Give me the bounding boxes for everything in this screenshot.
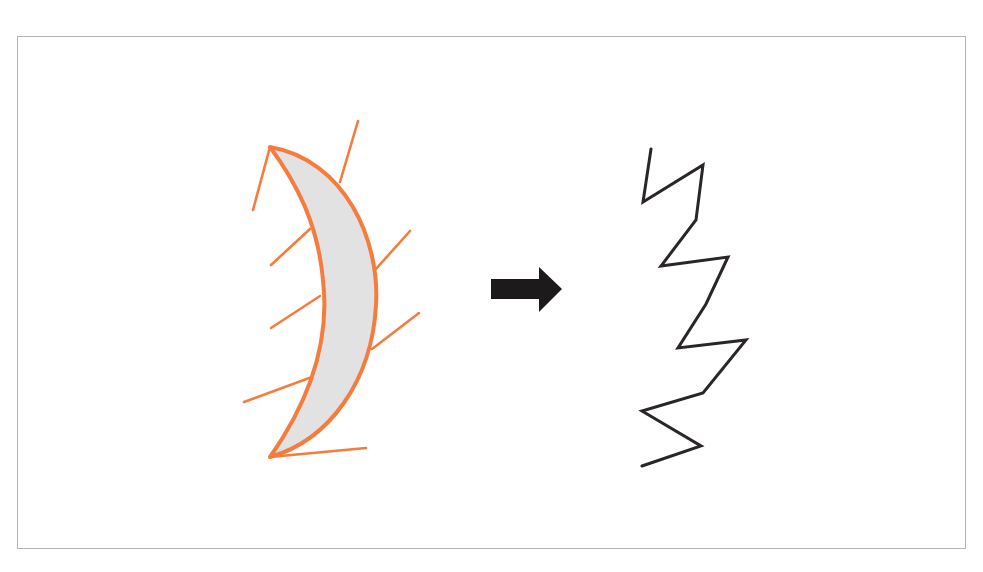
ray-left-2 (271, 229, 310, 265)
zigzag-line (642, 149, 746, 466)
ray-right-2 (372, 313, 419, 349)
ray-left-3 (271, 296, 320, 328)
diagram-canvas (0, 0, 983, 572)
figure-graphic (0, 0, 983, 572)
ray-top-left (253, 147, 270, 210)
ray-right-1 (375, 231, 410, 270)
arrow-right-icon (491, 267, 562, 312)
crescent-shape (270, 147, 376, 457)
ray-top-right (340, 121, 358, 182)
